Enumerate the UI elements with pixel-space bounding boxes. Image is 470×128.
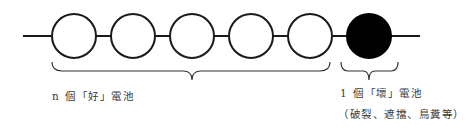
- bad-cell: [347, 14, 391, 58]
- bad-cell-causes-label: （破裂、遮擋、鳥糞等）: [338, 106, 465, 121]
- good-cells-label: n 個「好」電池: [52, 88, 134, 103]
- good-cell-5: [288, 14, 332, 58]
- bad-cell-label: 1 個「壞」電池: [340, 85, 422, 100]
- good-cell-2: [111, 14, 155, 58]
- good-cells-brace: [52, 62, 330, 80]
- good-cell-4: [229, 14, 273, 58]
- good-cell-1: [52, 14, 96, 58]
- good-cell-3: [170, 14, 214, 58]
- bad-cell-brace: [341, 62, 398, 80]
